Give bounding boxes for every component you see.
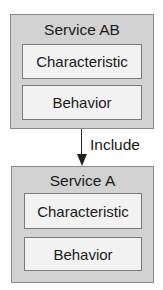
service-a-title: Service A <box>12 172 153 190</box>
include-label: Include <box>90 136 140 154</box>
service-a-characteristic: Characteristic <box>24 193 142 229</box>
include-arrow-line <box>81 129 82 155</box>
service-ab-box: Service AB Characteristic Behavior <box>10 14 154 129</box>
service-a-behavior: Behavior <box>24 237 142 271</box>
service-a-box: Service A Characteristic Behavior <box>11 166 154 283</box>
service-ab-title: Service AB <box>11 21 153 39</box>
service-ab-behavior: Behavior <box>22 85 142 120</box>
include-arrowhead-icon <box>77 154 87 166</box>
service-ab-characteristic: Characteristic <box>22 44 142 79</box>
